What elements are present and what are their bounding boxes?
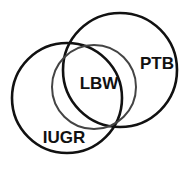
venn-diagram-canvas: PTB IUGR LBW xyxy=(0,0,190,170)
venn-label-ptb: PTB xyxy=(140,54,174,73)
venn-diagram-figure: PTB IUGR LBW xyxy=(0,0,190,170)
venn-label-lbw: LBW xyxy=(80,74,120,93)
venn-label-iugr: IUGR xyxy=(43,128,86,147)
